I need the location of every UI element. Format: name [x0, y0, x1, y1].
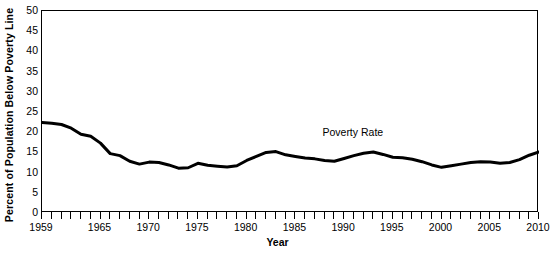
x-tick [489, 212, 490, 219]
x-tick [80, 212, 81, 219]
x-tick [431, 212, 432, 219]
x-tick-label: 1995 [380, 221, 403, 233]
x-tick [294, 212, 295, 219]
x-tick-label: 1980 [234, 221, 257, 233]
x-tick [392, 212, 393, 219]
poverty-rate-annotation: Poverty Rate [322, 126, 383, 138]
x-tick [158, 212, 159, 219]
x-tick [519, 212, 520, 219]
x-tick [100, 212, 101, 219]
y-tick-label: 40 [16, 45, 38, 55]
x-tick [411, 212, 412, 219]
x-tick [255, 212, 256, 219]
x-tick [197, 212, 198, 219]
y-tick-label: 5 [16, 187, 38, 197]
x-tick [470, 212, 471, 219]
x-tick [421, 212, 422, 219]
y-tick-label: 35 [16, 66, 38, 76]
x-tick [148, 212, 149, 219]
x-tick [207, 212, 208, 219]
x-tick-label: 1975 [185, 221, 208, 233]
x-tick [402, 212, 403, 219]
x-tick [187, 212, 188, 219]
y-tick-label: 0 [16, 207, 38, 217]
poverty-rate-line [42, 11, 539, 213]
x-tick [538, 212, 539, 219]
x-tick-label: 1985 [283, 221, 306, 233]
y-tick-label: 25 [16, 106, 38, 116]
y-tick-label: 45 [16, 25, 38, 35]
poverty-rate-polyline [42, 123, 539, 169]
x-tick [509, 212, 510, 219]
x-tick [460, 212, 461, 219]
x-tick [353, 212, 354, 219]
plot-area [41, 10, 538, 212]
x-tick [226, 212, 227, 219]
x-tick [382, 212, 383, 219]
x-axis-title: Year [0, 236, 555, 248]
x-tick [285, 212, 286, 219]
x-tick-label: 1990 [331, 221, 354, 233]
x-tick [275, 212, 276, 219]
y-tick-label: 15 [16, 146, 38, 156]
x-tick [304, 212, 305, 219]
x-tick [333, 212, 334, 219]
x-tick [324, 212, 325, 219]
x-tick [450, 212, 451, 219]
x-tick [70, 212, 71, 219]
x-tick [216, 212, 217, 219]
x-tick [168, 212, 169, 219]
x-tick [265, 212, 266, 219]
x-axis-ticks [41, 212, 538, 220]
x-tick-label: 2010 [526, 221, 549, 233]
x-tick-label: 1970 [137, 221, 160, 233]
x-tick [177, 212, 178, 219]
y-tick-label: 50 [16, 5, 38, 15]
x-tick [363, 212, 364, 219]
x-tick [51, 212, 52, 219]
x-tick [139, 212, 140, 219]
x-tick [441, 212, 442, 219]
x-tick-label: 1965 [88, 221, 111, 233]
y-tick-label: 20 [16, 126, 38, 136]
x-tick [61, 212, 62, 219]
x-tick [499, 212, 500, 219]
x-tick [41, 212, 42, 219]
x-tick [129, 212, 130, 219]
y-tick-label: 10 [16, 167, 38, 177]
y-axis-tick-labels: 05101520253035404550 [12, 10, 38, 212]
x-tick [343, 212, 344, 219]
x-tick [236, 212, 237, 219]
poverty-rate-chart: Percent of Population Below Poverty Line… [0, 0, 555, 256]
x-axis-tick-labels: 1959196519701975198019851990199520002005… [0, 221, 555, 235]
x-tick [480, 212, 481, 219]
x-tick-label: 2000 [429, 221, 452, 233]
x-tick [314, 212, 315, 219]
x-tick-label: 2005 [478, 221, 501, 233]
x-tick [90, 212, 91, 219]
x-tick [109, 212, 110, 219]
x-tick [528, 212, 529, 219]
x-tick [119, 212, 120, 219]
x-tick-label: 1959 [29, 221, 52, 233]
x-tick [372, 212, 373, 219]
y-tick-label: 30 [16, 86, 38, 96]
x-tick [246, 212, 247, 219]
